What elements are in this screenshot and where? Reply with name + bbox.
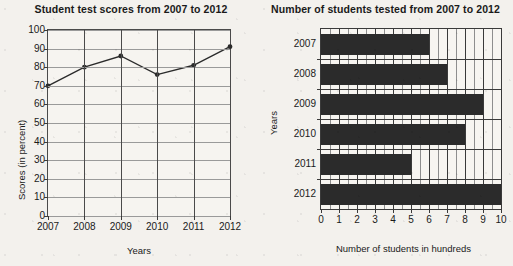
bar-chart-x-tick-label: 4 [390,215,396,225]
line-chart-x-tick-label: 2009 [110,222,132,232]
bar-chart-x-tick-mark [447,209,448,213]
bar-chart-x-tick-mark [375,209,376,213]
bar-chart-y-tick-label: 2008 [294,69,316,79]
bar-chart-x-tick-label: 8 [462,215,468,225]
line-chart-gridline-v [194,30,195,216]
line-chart-gridline-h [48,49,230,50]
bar-chart-y-tick-label: 2012 [294,189,316,199]
line-chart-title: Student test scores from 2007 to 2012 [0,3,256,15]
line-chart-y-tick-mark [44,179,48,180]
line-chart-y-tick-label: 100 [28,25,45,35]
line-chart-gridline-v [121,30,122,216]
line-chart-gridline-h [48,123,230,124]
line-chart-gridline-h [48,197,230,198]
bar-chart-title: Number of students tested from 2007 to 2… [256,3,513,15]
line-chart-gridline-h [48,86,230,87]
line-chart-panel: Student test scores from 2007 to 2012 Sc… [0,0,256,266]
bar-chart-x-tick-mark [429,209,430,213]
line-chart-plot-area: 0102030405060708090100200720082009201020… [47,29,231,217]
line-chart-y-tick-mark [44,86,48,87]
line-chart-y-tick-mark [44,142,48,143]
line-chart-y-tick-mark [44,49,48,50]
bar-chart-x-tick-mark [357,209,358,213]
bar-chart-bar [321,154,411,175]
bar-chart-x-tick-mark [483,209,484,213]
bar-chart-x-tick-label: 1 [336,215,342,225]
line-chart-gridline-v [157,30,158,216]
bar-chart-x-tick-label: 5 [408,215,414,225]
line-chart-x-tick-mark [48,216,49,220]
line-chart-x-tick-mark [157,216,158,220]
line-chart-x-tick-mark [230,216,231,220]
line-chart-y-tick-mark [44,67,48,68]
bar-chart-x-tick-mark [411,209,412,213]
line-chart-y-tick-mark [44,123,48,124]
bar-chart-x-tick-mark [465,209,466,213]
line-chart-y-tick-mark [44,197,48,198]
bar-chart-x-tick-mark [321,209,322,213]
bar-chart-x-tick-label: 0 [318,215,324,225]
line-chart-x-axis-label: Years [47,245,231,256]
bar-chart-y-tick-label: 2010 [294,129,316,139]
line-chart-gridline-h [48,179,230,180]
line-chart-gridline-h [48,30,230,31]
bar-chart-x-tick-mark [393,209,394,213]
bar-chart-x-tick-label: 9 [480,215,486,225]
line-chart-gridline-h [48,216,230,217]
line-chart-x-tick-mark [84,216,85,220]
figure-page: Student test scores from 2007 to 2012 Sc… [0,0,513,266]
line-chart-y-tick-mark [44,160,48,161]
bar-chart-y-tick-label: 2011 [294,159,316,169]
bar-chart-x-tick-label: 10 [495,215,506,225]
bar-chart-y-tick-mark [317,89,322,90]
line-chart-x-tick-mark [194,216,195,220]
line-chart-x-tick-label: 2011 [183,222,205,232]
bar-chart-category-separator [321,149,501,150]
bar-chart-category-separator [321,119,501,120]
bar-chart-x-tick-label: 7 [444,215,450,225]
bar-chart-bar [321,34,429,55]
line-chart-gridline-h [48,142,230,143]
line-chart-x-tick-label: 2007 [37,222,59,232]
line-chart-x-tick-label: 2010 [146,222,168,232]
bar-chart-category-separator [321,59,501,60]
line-chart-x-tick-mark [121,216,122,220]
bar-chart-x-tick-label: 2 [354,215,360,225]
line-chart-gridline-h [48,67,230,68]
bar-chart-x-axis-label: Number of students in hundreds [296,243,511,254]
bar-chart-y-tick-label: 2009 [294,99,316,109]
line-chart-gridline-h [48,104,230,105]
bar-chart-panel: Number of students tested from 2007 to 2… [256,0,513,266]
bar-chart-y-tick-mark [317,179,322,180]
bar-chart-category-separator [321,89,501,90]
line-chart-gridline-h [48,160,230,161]
bar-chart-plot-area: 012345678910200720082009201020112012 [320,28,502,210]
bar-chart-category-separator [321,179,501,180]
line-chart-x-tick-label: 2012 [219,222,241,232]
line-chart-y-tick-mark [44,30,48,31]
line-chart-gridline-v [84,30,85,216]
bar-chart-x-tick-mark [501,209,502,213]
bar-chart-y-tick-mark [317,59,322,60]
line-chart-x-tick-label: 2008 [73,222,95,232]
bar-chart-bar [321,64,447,85]
bar-chart-y-axis-label: Years [268,111,279,135]
line-chart-y-axis-label: Scores (in percent) [16,120,27,200]
bar-chart-x-tick-mark [339,209,340,213]
bar-chart-y-tick-mark [317,149,322,150]
bar-chart-x-tick-label: 6 [426,215,432,225]
bar-chart-y-tick-label: 2007 [294,39,316,49]
bar-chart-bar [321,124,465,145]
bar-chart-bar [321,94,483,115]
bar-chart-y-tick-mark [317,119,322,120]
bar-chart-bar [321,184,501,205]
line-chart-y-tick-mark [44,104,48,105]
bar-chart-x-tick-label: 3 [372,215,378,225]
